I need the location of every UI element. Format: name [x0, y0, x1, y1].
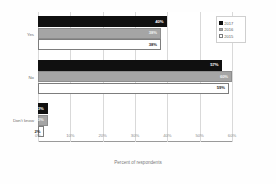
bar-group: No57%60%59% [38, 60, 232, 95]
x-tick-label: 60% [228, 133, 236, 138]
x-tick-label: 50% [195, 133, 203, 138]
bar[interactable]: 59% [38, 83, 229, 94]
x-axis-title: Percent of respondents [0, 160, 276, 165]
bar[interactable]: 3% [38, 103, 48, 114]
category-label: Don't know [13, 118, 34, 123]
bar-value-label: 38% [149, 43, 157, 47]
bar[interactable]: 38% [38, 28, 161, 39]
x-tick-label: 20% [98, 133, 106, 138]
bar-value-label: 3% [38, 118, 44, 122]
category-label: Yes [27, 31, 34, 36]
legend-swatch-icon [219, 21, 223, 25]
chart-legend: 201720162015 [216, 16, 246, 43]
bar[interactable]: 38% [38, 39, 161, 50]
legend-swatch-icon [219, 34, 223, 38]
legend-item[interactable]: 2017 [219, 21, 243, 26]
bar-value-label: 40% [155, 20, 163, 24]
legend-item[interactable]: 2016 [219, 27, 243, 32]
bar-value-label: 59% [217, 86, 225, 90]
bar-value-label: 60% [220, 75, 228, 79]
bar[interactable]: 40% [38, 16, 167, 27]
plot-area: Yes40%38%38%No57%60%59%Don't know3%3%2% [38, 12, 232, 142]
x-tick-label: 0% [35, 133, 41, 138]
legend-label: 2016 [224, 27, 233, 32]
legend-item[interactable]: 2015 [219, 34, 243, 39]
bar-value-label: 38% [149, 31, 157, 35]
bar[interactable]: 57% [38, 60, 222, 71]
legend-label: 2015 [224, 34, 233, 39]
category-label: No [29, 75, 35, 80]
x-tick-label: 40% [163, 133, 171, 138]
x-tick-label: 30% [131, 133, 139, 138]
bar-chart: Yes40%38%38%No57%60%59%Don't know3%3%2% … [0, 0, 276, 184]
bar[interactable]: 3% [38, 115, 48, 126]
bar-group: Yes40%38%38% [38, 16, 232, 51]
x-tick-label: 10% [66, 133, 74, 138]
bar-value-label: 57% [210, 63, 218, 67]
bar-value-label: 3% [38, 106, 44, 110]
bar[interactable]: 60% [38, 71, 232, 82]
legend-label: 2017 [224, 21, 233, 26]
legend-swatch-icon [219, 28, 223, 32]
